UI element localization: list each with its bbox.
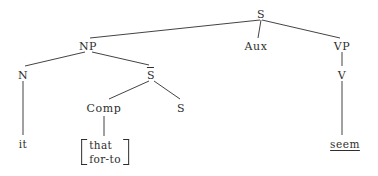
leaf-it: it [19,139,28,150]
leaf-seem: seem [330,139,360,150]
node-s-bar-label: S [147,70,155,81]
syntax-tree-figure: { "figure": { "kind": "syntactic-tree-di… [0,0,378,176]
left-curly-brace-icon [80,138,86,166]
node-vp: VP [334,41,351,52]
node-s-embedded: S [177,103,185,114]
tree-edge-np-to-s_bar [92,52,149,65]
comp-options-list: that for-to [86,138,124,166]
node-s-root: S [257,9,265,20]
node-n: N [18,70,28,81]
tree-edges-layer [0,0,378,176]
comp-option-that: that [89,138,121,152]
tree-edge-s_root-to-np [90,20,260,38]
node-v: V [338,70,347,81]
tree-edge-s_bar-to-comp [109,81,149,99]
comp-option-for-to: for-to [89,152,121,166]
node-s-bar: S [147,70,155,81]
node-aux: Aux [244,41,267,52]
node-np: NP [79,41,97,52]
tree-edge-s_root-to-aux [258,20,261,38]
node-comp: Comp [87,103,122,114]
tree-edge-np-to-n [25,52,85,66]
comp-options-brace-group: that for-to [80,138,130,166]
tree-edge-s_bar-to-s_embedded [154,81,180,99]
right-curly-brace-icon [124,138,130,166]
tree-edge-s_root-to-vp [262,20,340,38]
